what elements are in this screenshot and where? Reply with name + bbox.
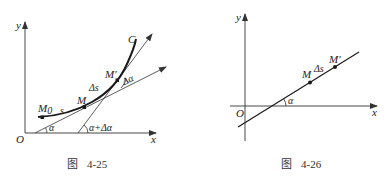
point-m0 <box>41 116 45 120</box>
figure-caption-prefix: 图 <box>67 158 78 170</box>
alpha-label: α <box>288 95 294 106</box>
y-axis-label: y <box>235 11 241 23</box>
diagram-canvas: y x O C M0 M M′ s Δs Δα α α+Δα 图 4-25 <box>0 0 392 184</box>
alpha-label: α <box>49 122 55 133</box>
figure-caption-number: 4-25 <box>87 158 108 170</box>
figure-4-26: y x O M M′ Δs α 图 4-26 <box>230 11 377 170</box>
m-prime-label: M′ <box>104 68 117 80</box>
point-m <box>83 106 87 110</box>
arc-delta-s-label: Δs <box>313 63 324 74</box>
point-m <box>308 81 312 85</box>
y-axis-label: y <box>15 19 21 31</box>
m-label: M <box>301 68 312 80</box>
origin-label: O <box>16 133 24 145</box>
figure-4-25: y x O C M0 M M′ s Δs Δα α α+Δα 图 4-25 <box>15 19 166 170</box>
arc-s-label: s <box>60 105 64 116</box>
origin-label: O <box>236 107 244 119</box>
point-m-prime <box>333 65 337 69</box>
x-axis-label: x <box>371 106 377 118</box>
m-prime-label: M′ <box>328 53 341 65</box>
arc-delta-s-label: Δs <box>88 82 99 93</box>
curve-label: C <box>128 33 136 45</box>
alpha-angle-arc <box>284 99 287 107</box>
x-axis-label: x <box>150 133 156 145</box>
alpha-angle-arc <box>46 128 48 133</box>
figure-caption-prefix: 图 <box>281 158 292 170</box>
alpha-plus-angle-arc <box>84 125 88 133</box>
figure-caption-number: 4-26 <box>301 158 322 170</box>
m-label: M <box>76 94 87 106</box>
alpha-plus-delta-alpha-label: α+Δα <box>89 122 113 133</box>
m0-label: M0 <box>37 102 52 116</box>
straight-line <box>238 52 359 127</box>
